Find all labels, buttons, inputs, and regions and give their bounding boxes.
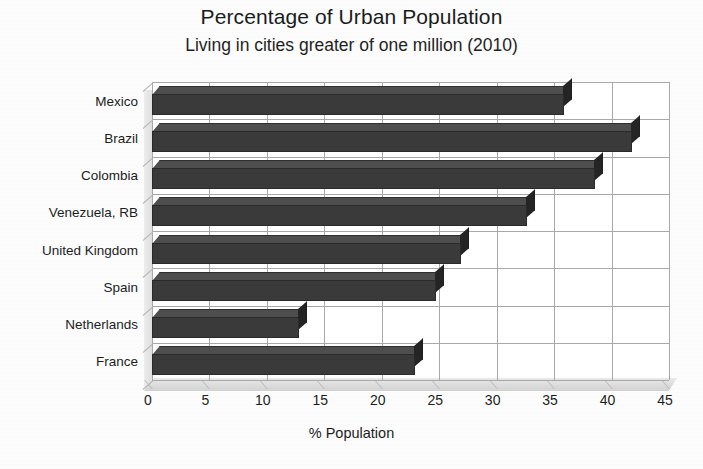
bar-france xyxy=(152,354,415,375)
y-axis-tick-labels: MexicoBrazilColombiaVenezuela, RBUnited … xyxy=(0,78,144,383)
row-separator xyxy=(152,306,669,307)
y-tick-netherlands: Netherlands xyxy=(65,317,138,332)
y-tick-venezuela-rb: Venezuela, RB xyxy=(49,205,138,220)
row-separator xyxy=(152,231,669,232)
x-tick-10: 10 xyxy=(255,392,271,408)
bar-united-kingdom xyxy=(152,243,461,264)
x-tick-40: 40 xyxy=(600,392,616,408)
y-tick-united-kingdom: United Kingdom xyxy=(42,242,138,257)
row-separator xyxy=(152,343,669,344)
bar-front-face xyxy=(152,354,415,375)
bar-front-face xyxy=(152,94,564,115)
bar-front-face xyxy=(152,243,461,264)
x-tick-5: 5 xyxy=(202,392,210,408)
x-axis-tick-labels: 051015202530354045 xyxy=(0,392,703,412)
x-tick-25: 25 xyxy=(427,392,443,408)
plot-area: MexicoBrazilColombiaVenezuela, RBUnited … xyxy=(0,0,703,469)
chart-page: Percentage of Urban Population Living in… xyxy=(0,0,703,469)
y-tick-colombia: Colombia xyxy=(81,168,138,183)
bar-brazil xyxy=(152,131,632,152)
bar-mexico xyxy=(152,94,564,115)
row-separator xyxy=(152,157,669,158)
x-tick-45: 45 xyxy=(657,392,673,408)
y-tick-brazil: Brazil xyxy=(104,130,138,145)
y-tick-mexico: Mexico xyxy=(95,93,138,108)
bar-front-face xyxy=(152,168,595,189)
row-separator xyxy=(152,82,669,83)
x-tick-0: 0 xyxy=(144,392,152,408)
x-axis-label: % Population xyxy=(0,425,703,441)
x-tick-20: 20 xyxy=(370,392,386,408)
bar-front-face xyxy=(152,317,299,338)
page-caption-fragment xyxy=(0,453,703,469)
x-tick-30: 30 xyxy=(485,392,501,408)
bar-front-face xyxy=(152,205,527,226)
y-tick-spain: Spain xyxy=(103,279,138,294)
row-separator xyxy=(152,268,669,269)
row-separator xyxy=(152,380,669,381)
gridline-x-45 xyxy=(669,82,670,380)
bar-front-face xyxy=(152,280,436,301)
bar-netherlands xyxy=(152,317,299,338)
x-tick-35: 35 xyxy=(542,392,558,408)
y-tick-france: France xyxy=(96,354,138,369)
bar-spain xyxy=(152,280,436,301)
bar-colombia xyxy=(152,168,595,189)
x-tick-15: 15 xyxy=(313,392,329,408)
bar-front-face xyxy=(152,131,632,152)
row-separator xyxy=(152,119,669,120)
row-separator xyxy=(152,194,669,195)
bar-venezuela-rb xyxy=(152,205,527,226)
